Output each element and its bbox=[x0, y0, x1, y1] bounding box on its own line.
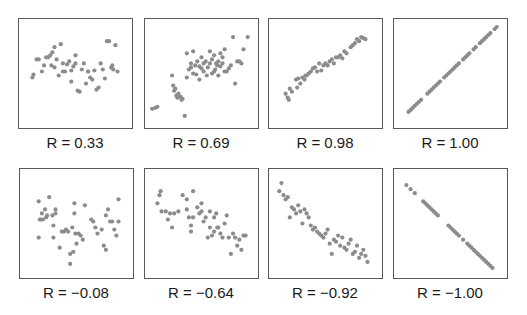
scatter-point bbox=[292, 207, 296, 211]
scatter-point bbox=[37, 57, 41, 61]
scatter-point bbox=[204, 215, 208, 219]
scatter-point bbox=[302, 207, 306, 211]
scatter-point bbox=[359, 252, 363, 256]
scatter-point bbox=[287, 98, 291, 102]
scatter-point bbox=[340, 236, 344, 240]
scatter-point bbox=[294, 211, 298, 215]
scatter-point bbox=[244, 234, 248, 238]
scatter-plot bbox=[19, 19, 132, 128]
scatter-point bbox=[355, 244, 359, 248]
panel-label: R = −0.08 bbox=[6, 284, 146, 302]
scatter-point bbox=[81, 238, 85, 242]
scatter-plot bbox=[20, 169, 133, 278]
scatter-point bbox=[42, 63, 46, 67]
scatter-point bbox=[227, 236, 231, 240]
scatter-point bbox=[104, 248, 108, 252]
scatter-panel-r-neg064 bbox=[144, 168, 259, 279]
panel-label: R = 0.69 bbox=[131, 134, 271, 152]
scatter-point bbox=[90, 78, 94, 82]
scatter-point bbox=[199, 209, 203, 213]
scatter-point bbox=[205, 73, 209, 77]
scatter-point bbox=[199, 201, 203, 205]
scatter-point bbox=[170, 73, 174, 77]
scatter-point bbox=[212, 230, 216, 234]
scatter-point bbox=[61, 61, 65, 65]
scatter-point bbox=[91, 219, 95, 223]
scatter-point bbox=[357, 39, 361, 43]
scatter-point bbox=[309, 223, 313, 227]
scatter-point bbox=[43, 207, 47, 211]
scatter-point bbox=[334, 240, 338, 244]
scatter-point bbox=[115, 69, 119, 73]
scatter-point bbox=[438, 80, 442, 84]
scatter-point bbox=[116, 197, 120, 201]
scatter-point bbox=[159, 189, 163, 193]
scatter-plot bbox=[145, 19, 258, 128]
scatter-point bbox=[349, 238, 353, 242]
scatter-point bbox=[328, 242, 332, 246]
scatter-point bbox=[419, 98, 423, 102]
scatter-point bbox=[101, 67, 105, 71]
panel-label: R = −1.00 bbox=[380, 284, 520, 302]
scatter-point bbox=[212, 215, 216, 219]
scatter-point bbox=[210, 57, 214, 61]
scatter-point bbox=[195, 59, 199, 63]
scatter-point bbox=[185, 207, 189, 211]
scatter-point bbox=[176, 209, 180, 213]
scatter-point bbox=[288, 215, 292, 219]
scatter-point bbox=[183, 114, 187, 118]
scatter-point bbox=[59, 42, 63, 46]
scatter-point bbox=[83, 203, 87, 207]
panel-label: R = 1.00 bbox=[380, 134, 520, 152]
scatter-point bbox=[55, 57, 59, 61]
scatter-point bbox=[361, 248, 365, 252]
scatter-point bbox=[193, 63, 197, 67]
scatter-point bbox=[241, 47, 245, 51]
scatter-point bbox=[340, 56, 344, 60]
scatter-point bbox=[233, 82, 237, 86]
scatter-point bbox=[404, 183, 408, 187]
scatter-point bbox=[223, 47, 227, 51]
scatter-point bbox=[73, 61, 77, 65]
scatter-point bbox=[72, 201, 76, 205]
scatter-point bbox=[181, 97, 185, 101]
scatter-point bbox=[170, 225, 174, 229]
scatter-point bbox=[490, 266, 494, 270]
scatter-point bbox=[67, 59, 71, 63]
scatter-point bbox=[208, 209, 212, 213]
scatter-point bbox=[488, 31, 492, 35]
scatter-point bbox=[204, 59, 208, 63]
scatter-point bbox=[218, 232, 222, 236]
scatter-point bbox=[189, 230, 193, 234]
scatter-point bbox=[100, 228, 104, 232]
scatter-point bbox=[295, 86, 299, 90]
scatter-point bbox=[37, 236, 41, 240]
scatter-point bbox=[40, 69, 44, 73]
scatter-point bbox=[330, 252, 334, 256]
scatter-point bbox=[229, 63, 233, 67]
scatter-point bbox=[317, 61, 321, 65]
scatter-point bbox=[86, 69, 90, 73]
scatter-point bbox=[229, 252, 233, 256]
scatter-point bbox=[305, 211, 309, 215]
scatter-point bbox=[79, 234, 83, 238]
scatter-point bbox=[206, 236, 210, 240]
scatter-point bbox=[457, 234, 461, 238]
scatter-point bbox=[233, 236, 237, 240]
scatter-point bbox=[474, 45, 478, 49]
scatter-point bbox=[286, 195, 290, 199]
scatter-point bbox=[231, 232, 235, 236]
panel-label: R = 0.98 bbox=[255, 134, 395, 152]
scatter-point bbox=[110, 219, 114, 223]
scatter-plot bbox=[394, 19, 507, 128]
scatter-point bbox=[336, 234, 340, 238]
scatter-point bbox=[172, 211, 176, 215]
scatter-panel-r-neg008 bbox=[19, 168, 134, 279]
scatter-plot bbox=[269, 169, 382, 278]
scatter-point bbox=[95, 232, 99, 236]
panel-label: R = −0.64 bbox=[131, 284, 271, 302]
scatter-point bbox=[290, 90, 294, 94]
scatter-point bbox=[457, 61, 461, 65]
scatter-point bbox=[53, 211, 57, 215]
scatter-point bbox=[347, 242, 351, 246]
